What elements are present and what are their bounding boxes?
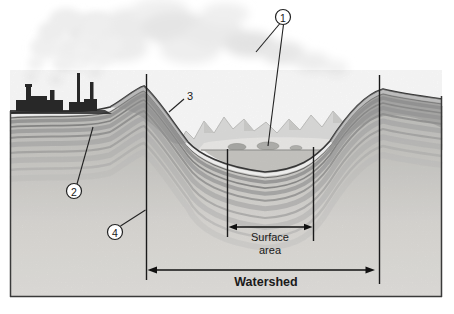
surface-area-label-line2: area: [259, 244, 282, 256]
callout-1: 1: [276, 10, 291, 25]
callout-2: 2: [67, 184, 82, 199]
surface-area-label-line1: Surface: [251, 231, 289, 243]
callout-4: 4: [108, 225, 123, 240]
watershed-label: Watershed: [234, 275, 297, 289]
callout-1-label: 1: [280, 12, 286, 24]
callout-4-label: 4: [112, 227, 118, 239]
watershed-diagram: 1 2 3 4 Surface area Watershed: [0, 0, 454, 314]
callout-2-label: 2: [71, 186, 77, 198]
callout-3-label: 3: [187, 90, 193, 102]
diagram-canvas: 1 2 3 4 Surface area Watershed: [0, 0, 454, 314]
